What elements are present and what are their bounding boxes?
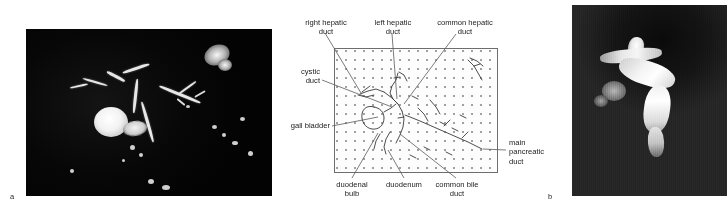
panel-a-speckle [122, 159, 125, 162]
label-common-bile-duct-line2: duct [424, 189, 490, 198]
panel-a-speckle [248, 151, 253, 156]
panel-a-cholangiogram-image [26, 29, 272, 196]
label-duodenal-bulb-line2: bulb [322, 189, 382, 198]
label-main-pancreatic-duct-line3: duct [509, 157, 569, 166]
panel-a-speckle [186, 105, 190, 108]
label-cystic-duct-line1: cystic [272, 67, 320, 76]
label-left-hepatic-duct: left hepatic duct [362, 18, 424, 37]
label-common-bile-duct: common bile duct [424, 180, 490, 199]
label-duodenal-bulb-line1: duodenal [322, 180, 382, 189]
label-cystic-duct-line2: duct [272, 76, 320, 85]
panel-a-speckle [212, 125, 217, 129]
figure-root: a [0, 0, 727, 211]
panel-a-speckle [130, 145, 135, 150]
label-gall-bladder: gall bladder [258, 121, 330, 130]
label-left-hepatic-duct-line1: left hepatic [362, 18, 424, 27]
panel-a-speckle [162, 185, 170, 190]
panel-b-scanline-texture [572, 5, 727, 196]
panel-a-speckle [232, 141, 238, 145]
label-common-hepatic-duct-line1: common hepatic [424, 18, 506, 27]
label-cystic-duct: cystic duct [272, 67, 320, 86]
panel-a-speckle [240, 117, 245, 121]
panel-b-letter: b [548, 192, 552, 201]
label-duodenal-bulb: duodenal bulb [322, 180, 382, 199]
diagram-stipple-box [334, 48, 498, 173]
label-main-pancreatic-duct-line2: pancreatic [509, 147, 569, 156]
panel-a-intrahepatic-branch-bright-2 [218, 59, 232, 71]
diagram-panel [334, 48, 498, 173]
panel-a-speckle [148, 179, 154, 184]
label-common-hepatic-duct-line2: duct [424, 27, 506, 36]
label-right-hepatic-duct-line2: duct [288, 27, 364, 36]
label-main-pancreatic-duct: main pancreatic duct [509, 138, 569, 166]
panel-a-background [26, 29, 272, 196]
panel-a-speckle [222, 133, 226, 137]
label-main-pancreatic-duct-line1: main [509, 138, 569, 147]
panel-a-speckle [139, 153, 143, 157]
label-common-hepatic-duct: common hepatic duct [424, 18, 506, 37]
label-right-hepatic-duct-line1: right hepatic [288, 18, 364, 27]
label-right-hepatic-duct: right hepatic duct [288, 18, 364, 37]
panel-a-gallbladder-bright-region [94, 107, 128, 137]
label-common-bile-duct-line1: common bile [424, 180, 490, 189]
panel-a-letter: a [10, 192, 14, 201]
panel-b-mri-image [572, 5, 727, 196]
label-left-hepatic-duct-line2: duct [362, 27, 424, 36]
panel-a-speckle [70, 169, 74, 173]
